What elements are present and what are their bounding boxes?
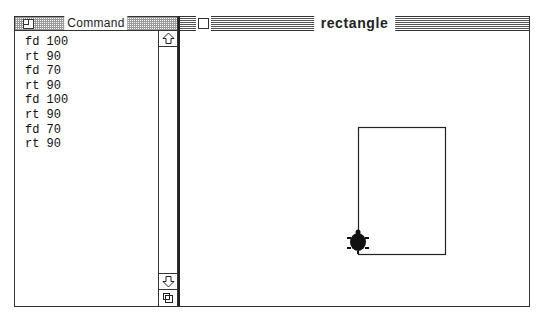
vertical-scrollbar[interactable] — [158, 31, 177, 306]
arrow-down-icon — [162, 275, 175, 288]
close-box-icon[interactable] — [23, 19, 34, 29]
command-line: rt 90 — [25, 108, 158, 123]
command-line: rt 90 — [25, 137, 158, 152]
arrow-up-icon — [162, 32, 175, 45]
command-line: rt 90 — [25, 50, 158, 65]
close-box-icon[interactable] — [198, 18, 209, 29]
grow-box-icon — [162, 292, 174, 304]
drawn-rectangle — [359, 128, 446, 255]
command-window-title: Command — [64, 16, 127, 30]
command-line: fd 70 — [25, 123, 158, 138]
command-line: fd 70 — [25, 64, 158, 79]
turtle-icon — [347, 230, 369, 255]
command-line: fd 100 — [25, 35, 158, 50]
command-window-title-bar[interactable]: Command — [15, 17, 177, 31]
resize-grow-box[interactable] — [159, 289, 177, 306]
scroll-down-button[interactable] — [159, 273, 177, 289]
command-text-area[interactable]: fd 100 rt 90 fd 70 rt 90 fd 100 rt 90 fd… — [15, 31, 158, 306]
graphics-window-title: rectangle — [314, 15, 396, 31]
command-line: rt 90 — [25, 79, 158, 94]
turtle-canvas[interactable] — [180, 31, 529, 306]
graphics-window-title-bar[interactable]: rectangle — [180, 17, 529, 31]
graphics-window: rectangle — [178, 16, 530, 307]
command-line: fd 100 — [25, 93, 158, 108]
command-window: Command fd 100 rt 90 fd 70 rt 90 fd 100 … — [14, 16, 178, 307]
scroll-up-button[interactable] — [159, 31, 177, 47]
